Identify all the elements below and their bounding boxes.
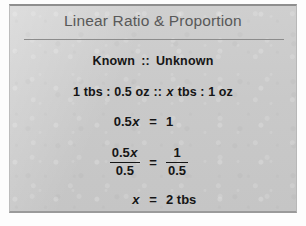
unknown-label: Unknown [156, 54, 214, 68]
step2-right-numerator: 1 [166, 146, 188, 160]
equation-step-3: x = 2 tbs [10, 190, 296, 208]
equation-step-1: 0.5x = 1 [10, 112, 296, 130]
step2-left-numerator-coefficient: 0.5 [112, 145, 130, 160]
step3-variable: x [132, 192, 140, 207]
step3-right-side: 2 tbs [166, 192, 270, 207]
step3-left-side: x [36, 192, 140, 207]
step1-left-side: 0.5x [36, 114, 140, 129]
known-unknown-heading: Known::Unknown [10, 54, 296, 68]
step1-equals-sign: = [140, 114, 166, 129]
equation-step-2: 0.5x 0.5 = 1 0.5 [10, 139, 296, 185]
proportion-variable: x [166, 85, 174, 99]
scanned-page: Linear Ratio & Proportion Known::Unknown… [0, 0, 306, 226]
unknown-ratio-tail: tbs : 1 oz [174, 85, 233, 99]
step3-equals-sign: = [140, 192, 166, 207]
step2-right-denominator: 0.5 [166, 164, 188, 178]
heading-separator: :: [135, 54, 156, 68]
step2-left-denominator: 0.5 [110, 164, 140, 178]
title-divider [24, 39, 284, 40]
proportion-statement: 1 tbs : 0.5 oz::x tbs : 1 oz [10, 85, 296, 99]
figure-title: Linear Ratio & Proportion [10, 12, 296, 30]
step1-right-side: 1 [166, 114, 270, 129]
figure-panel: Linear Ratio & Proportion Known::Unknown… [9, 4, 297, 213]
known-label: Known [92, 54, 135, 68]
step2-left-numerator: 0.5x [110, 146, 140, 160]
step2-left-side: 0.5x 0.5 [36, 146, 140, 179]
proportion-separator: :: [150, 85, 167, 99]
step2-right-fraction: 1 0.5 [166, 146, 188, 179]
step2-equals-sign: = [140, 155, 166, 170]
known-ratio: 1 tbs : 0.5 oz [73, 85, 149, 99]
step2-left-numerator-variable: x [130, 145, 138, 160]
step2-right-side: 1 0.5 [166, 146, 270, 179]
step2-left-fraction: 0.5x 0.5 [110, 146, 140, 179]
step1-variable: x [132, 114, 140, 129]
step1-coefficient: 0.5 [114, 114, 132, 129]
figure-content: Linear Ratio & Proportion Known::Unknown… [10, 6, 296, 211]
